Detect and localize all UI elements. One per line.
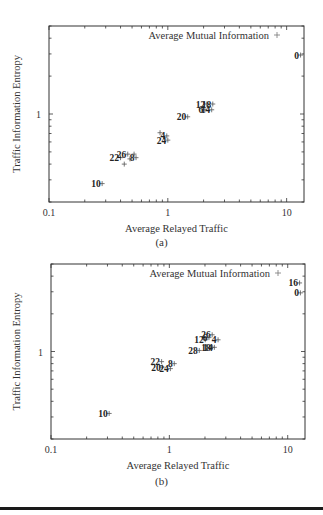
legend-plus-marker-icon xyxy=(275,270,281,276)
legend-label: Average Mutual Information xyxy=(149,268,270,279)
data-point: 8 xyxy=(168,359,177,369)
plot-frame xyxy=(51,264,305,439)
bottom-rule-divider xyxy=(0,507,323,510)
panel-caption-b: (b) xyxy=(0,475,323,487)
x-tick-label: 1 xyxy=(167,444,172,455)
point-label: 0 xyxy=(294,288,299,298)
point-label: 16 xyxy=(289,278,299,288)
point-label: 8 xyxy=(168,359,173,369)
x-axis-title: Average Relayed Traffic xyxy=(127,460,230,471)
data-points: 160122664281814222024810 xyxy=(98,278,303,419)
y-tick-label: 1 xyxy=(38,347,43,358)
point-label: 10 xyxy=(98,409,108,419)
x-tick-label: 0.1 xyxy=(45,444,58,455)
y-axis-title: Traffic Information Entropy xyxy=(11,292,22,411)
data-point: 10 xyxy=(98,409,112,419)
point-label: 28 xyxy=(188,346,198,356)
x-tick-label: 10 xyxy=(283,444,293,455)
chart-panel-b: 0.11101Average Relayed TrafficTraffic In… xyxy=(0,0,323,500)
point-label: 6 xyxy=(203,333,208,343)
scatter-plot-b: 0.11101Average Relayed TrafficTraffic In… xyxy=(0,0,323,500)
x-axis-ticks xyxy=(51,264,288,439)
legend: Average Mutual Information xyxy=(149,268,281,279)
data-point: 16 xyxy=(289,278,303,288)
y-axis-ticks xyxy=(51,264,305,439)
data-point: 28 xyxy=(188,346,202,356)
data-point: 4 xyxy=(212,335,221,345)
data-point: 0 xyxy=(294,288,303,298)
point-label: 14 xyxy=(203,343,213,353)
